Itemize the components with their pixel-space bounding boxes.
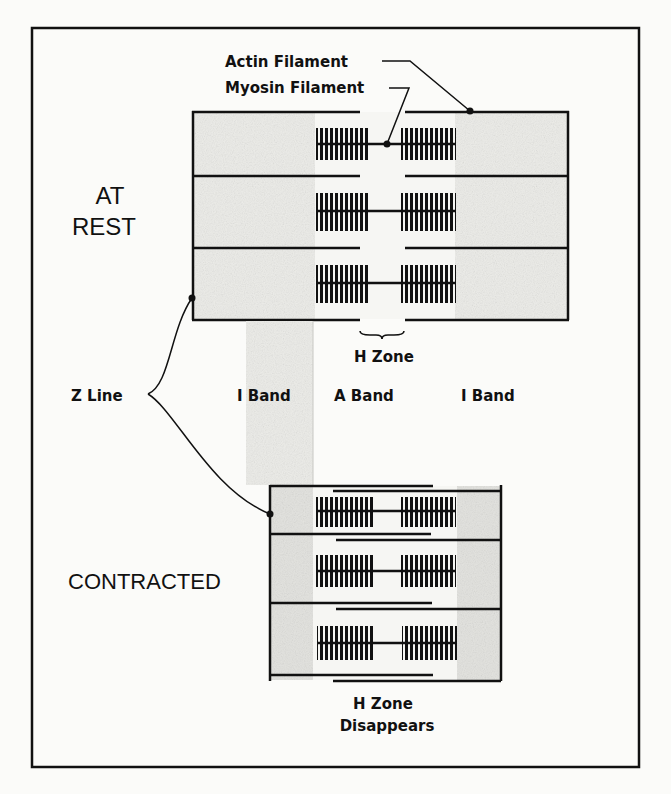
z-line-label: Z Line bbox=[71, 387, 123, 405]
myosin-pointer-dot bbox=[384, 141, 391, 148]
at-rest-label-line1: AT bbox=[96, 182, 125, 209]
at-rest-label-line2: REST bbox=[72, 213, 136, 240]
z-line-dot-top bbox=[189, 295, 196, 302]
actin-filament-label: Actin Filament bbox=[225, 53, 348, 71]
h-zone-disappears-line2: Disappears bbox=[340, 717, 435, 735]
a-band-label: A Band bbox=[334, 387, 394, 405]
h-zone-brace-icon bbox=[360, 331, 404, 339]
contracted-sarcomere bbox=[270, 485, 501, 681]
i-band-right-label: I Band bbox=[461, 387, 515, 405]
h-zone-label: H Zone bbox=[354, 348, 414, 366]
contracted-label: CONTRACTED bbox=[68, 569, 221, 594]
myosin-filament-label: Myosin Filament bbox=[225, 79, 364, 97]
actin-pointer-dot bbox=[467, 108, 474, 115]
z-line-dot-bottom bbox=[267, 511, 274, 518]
i-band-left-label: I Band bbox=[237, 387, 291, 405]
sarcomere-diagram: Actin Filament Myosin Filament AT REST H… bbox=[0, 0, 671, 794]
at-rest-sarcomere bbox=[192, 111, 569, 320]
h-zone-disappears-line1: H Zone bbox=[353, 695, 413, 713]
